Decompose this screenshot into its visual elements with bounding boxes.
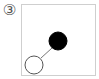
bond-line	[41, 48, 52, 58]
molecule-diagram	[0, 0, 99, 79]
filled-atom-icon	[49, 32, 67, 50]
hollow-atom-icon	[25, 56, 43, 74]
